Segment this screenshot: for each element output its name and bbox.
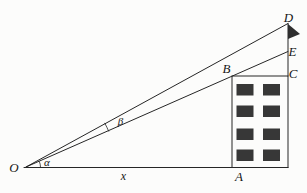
label-alpha: α	[44, 156, 50, 168]
label-beta: β	[117, 115, 124, 127]
label-C: C	[289, 66, 298, 81]
label-D: D	[283, 10, 294, 25]
building-window	[237, 129, 254, 141]
building-window	[263, 84, 280, 96]
flag-icon	[288, 24, 300, 39]
label-B: B	[223, 61, 231, 76]
beta-angle-arc	[105, 123, 109, 132]
label-A: A	[234, 169, 243, 184]
label-O: O	[9, 160, 19, 175]
alpha-angle-arc	[39, 161, 40, 167]
diagram-canvas: O A B C D E α β x	[0, 0, 307, 193]
building-window	[263, 129, 280, 141]
building-window	[263, 106, 280, 118]
geometry-diagram: O A B C D E α β x	[0, 0, 307, 193]
building-window	[237, 84, 254, 96]
label-E: E	[288, 44, 297, 59]
building-window	[237, 150, 254, 162]
label-x-distance: x	[120, 169, 127, 183]
building-window	[263, 150, 280, 162]
building-window	[237, 106, 254, 118]
